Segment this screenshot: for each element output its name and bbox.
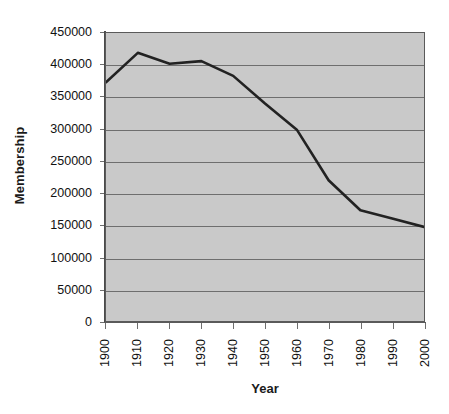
x-tick-mark — [201, 323, 202, 329]
x-tick-label: 1960 — [290, 330, 304, 376]
x-tick-mark — [329, 323, 330, 329]
x-tick-label: 1990 — [386, 330, 400, 376]
x-tick-label-text: 1990 — [386, 339, 400, 367]
x-tick-label: 1900 — [98, 330, 112, 376]
x-axis-ticks — [105, 323, 425, 330]
series-membership — [106, 33, 424, 321]
x-tick-label-text: 2000 — [418, 339, 432, 367]
x-tick-mark — [393, 323, 394, 329]
y-tick-label: 400000 — [50, 57, 92, 71]
x-tick-mark — [169, 323, 170, 329]
x-tick-mark — [233, 323, 234, 329]
y-tick-label: 450000 — [50, 25, 92, 39]
y-axis-tick-labels: 4500004000003500003000002500002000001500… — [30, 32, 98, 322]
x-tick-label-text: 1940 — [226, 339, 240, 367]
x-tick-label-text: 1970 — [322, 339, 336, 367]
x-tick-label: 1980 — [354, 330, 368, 376]
y-tick-label: 150000 — [50, 218, 92, 232]
x-tick-label-text: 1920 — [162, 339, 176, 367]
x-tick-mark — [265, 323, 266, 329]
x-tick-label-text: 1980 — [354, 339, 368, 367]
series-polyline — [106, 53, 424, 227]
x-tick-label: 1970 — [322, 330, 336, 376]
x-tick-label-text: 1930 — [194, 339, 208, 367]
y-tick-label: 350000 — [50, 89, 92, 103]
plot-area — [105, 32, 425, 322]
x-tick-mark — [105, 323, 106, 329]
x-tick-label-text: 1900 — [98, 339, 112, 367]
x-tick-label-text: 1910 — [130, 339, 144, 367]
y-tick-label: 300000 — [50, 122, 92, 136]
x-tick-label: 2000 — [418, 330, 432, 376]
x-tick-label: 1950 — [258, 330, 272, 376]
x-tick-mark — [137, 323, 138, 329]
y-tick-label: 200000 — [50, 186, 92, 200]
y-tick-label: 0 — [85, 315, 92, 329]
x-tick-label: 1930 — [194, 330, 208, 376]
x-tick-label-text: 1960 — [290, 339, 304, 367]
y-tick-label: 50000 — [57, 283, 92, 297]
y-axis-title-text: Membership — [13, 126, 28, 204]
x-tick-label: 1910 — [130, 330, 144, 376]
y-tick-label: 100000 — [50, 251, 92, 265]
x-tick-mark — [297, 323, 298, 329]
membership-line-chart: Membership 45000040000035000030000025000… — [0, 0, 449, 414]
x-axis-title: Year — [105, 381, 425, 396]
x-tick-label: 1940 — [226, 330, 240, 376]
x-tick-mark — [361, 323, 362, 329]
y-tick-label: 250000 — [50, 154, 92, 168]
x-tick-mark — [425, 323, 426, 329]
x-axis-tick-labels: 1900191019201930194019501960197019801990… — [105, 330, 425, 378]
x-tick-label: 1920 — [162, 330, 176, 376]
x-tick-label-text: 1950 — [258, 339, 272, 367]
